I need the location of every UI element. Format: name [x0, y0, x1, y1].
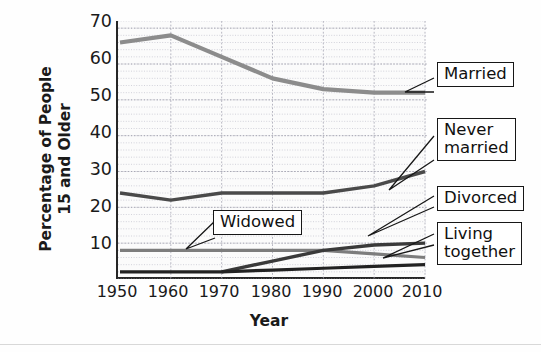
x-tick-1980: 1980 — [251, 284, 292, 300]
y-tick-60: 60 — [66, 50, 112, 68]
callout-widowed[interactable]: Widowed — [213, 210, 302, 235]
x-tick-1960: 1960 — [148, 284, 189, 300]
grid-minor — [118, 21, 427, 279]
callout-divorced[interactable]: Divorced — [437, 186, 524, 211]
series-canvas — [118, 21, 427, 279]
series-lines — [120, 35, 425, 272]
y-tick-30: 30 — [66, 161, 112, 179]
y-tick-40: 40 — [66, 124, 112, 142]
x-tick-2000: 2000 — [353, 284, 394, 300]
x-tick-1970: 1970 — [199, 284, 240, 300]
callout-never-married[interactable]: Never married — [437, 118, 516, 161]
callout-married[interactable]: Married — [437, 62, 514, 87]
x-axis-tick-labels: 1950 1960 1970 1980 1990 2000 2010 — [0, 284, 541, 308]
y-axis-title-line1: Percentage of People — [37, 39, 56, 279]
x-tick-1990: 1990 — [302, 284, 343, 300]
callout-living-together[interactable]: Living together — [437, 222, 522, 265]
y-tick-70: 70 — [66, 13, 112, 31]
x-tick-2010: 2010 — [402, 284, 443, 300]
plot-area — [116, 21, 425, 279]
y-tick-50: 50 — [66, 87, 112, 105]
series-line-living-together — [120, 265, 425, 272]
y-tick-20: 20 — [66, 198, 112, 216]
y-tick-10: 10 — [66, 235, 112, 253]
line-chart-figure: Percentage of People 15 and Older 70 60 … — [0, 0, 541, 352]
x-tick-1950: 1950 — [97, 284, 138, 300]
figure-bottom-rule — [0, 344, 541, 345]
x-axis-title: Year — [110, 312, 428, 330]
